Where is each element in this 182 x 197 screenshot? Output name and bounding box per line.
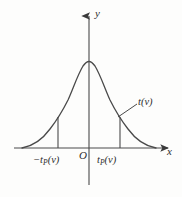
x-tick-label-positive-tp: tP(v) (97, 155, 116, 167)
origin-label: O (79, 150, 87, 161)
x-tick-label-negative-tp: −tP(v) (33, 155, 59, 167)
tick-argument-right: (v) (105, 154, 117, 165)
x-axis-label: x (167, 146, 172, 157)
figure-container: y x O t(v) −tP(v) tP(v) (0, 0, 182, 197)
tick-argument-left: (v) (48, 154, 60, 165)
curve-label-leader-line (118, 104, 137, 117)
curve-label: t(v) (138, 97, 153, 108)
y-axis-label: y (95, 8, 100, 19)
density-curve-diagram (0, 0, 182, 197)
